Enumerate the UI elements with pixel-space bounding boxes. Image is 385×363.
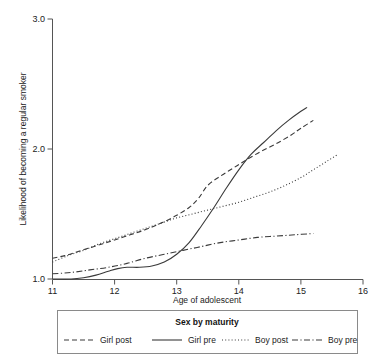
legend-title: Sex by maturity — [175, 317, 239, 327]
legend: Sex by maturity Girl postGirl preBoy pos… — [58, 311, 358, 354]
series-line-boy-post — [53, 154, 339, 262]
y-tick-label: 2.0 — [32, 144, 45, 154]
x-tick-label: 16 — [358, 286, 368, 296]
legend-label-girl-pre: Girl pre — [188, 335, 216, 345]
legend-label-girl-post: Girl post — [100, 335, 132, 345]
series-line-boy-pre — [53, 234, 314, 274]
x-axis-title: Age of adolescent — [173, 295, 242, 305]
line-chart-canvas: 1.02.03.0 111213141516 Age of adolescent… — [0, 0, 385, 363]
y-axis-ticks: 1.02.03.0 — [32, 14, 52, 284]
legend-label-boy-pre: Boy pre — [328, 335, 358, 345]
axes-group — [53, 19, 364, 280]
chart-figure: 1.02.03.0 111213141516 Age of adolescent… — [0, 0, 385, 363]
y-tick-label: 1.0 — [32, 274, 45, 284]
legend-label-boy-post: Boy post — [255, 335, 289, 345]
x-tick-label: 12 — [110, 286, 120, 296]
x-axis-ticks: 111213141516 — [48, 280, 368, 297]
x-tick-label: 11 — [48, 286, 57, 296]
series-line-girl-pre — [53, 107, 308, 279]
y-tick-label: 3.0 — [32, 14, 45, 24]
y-axis-title: Likelihood of becoming a regular smoker — [18, 72, 28, 225]
series-line-girl-post — [53, 120, 314, 258]
x-tick-label: 15 — [296, 286, 306, 296]
series-group — [53, 107, 339, 279]
